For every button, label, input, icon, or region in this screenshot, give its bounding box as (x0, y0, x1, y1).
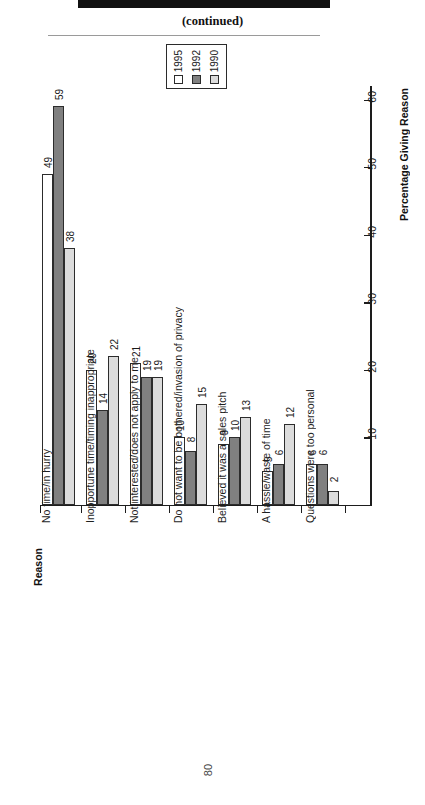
category-tick (301, 506, 302, 513)
bar-slot: 14 (97, 86, 108, 505)
bar-slot: 13 (240, 86, 251, 505)
category-tick (213, 506, 214, 513)
bar-value-label: 14 (97, 391, 108, 407)
bar-slot: 59 (53, 86, 64, 505)
bar[interactable]: 19 (152, 377, 163, 505)
title-block-redacted (78, 0, 330, 8)
bar[interactable]: 8 (185, 451, 196, 505)
value-tick (364, 505, 370, 506)
bar-slot: 8 (185, 86, 196, 505)
value-tick-label: 10 (366, 428, 378, 440)
bar[interactable]: 12 (284, 424, 295, 505)
bar-slot: 19 (141, 86, 152, 505)
bar-value-label: 13 (240, 398, 251, 414)
bar-value-label: 6 (273, 445, 284, 461)
bar[interactable]: 13 (240, 417, 251, 505)
bar-value-label: 38 (64, 229, 75, 245)
bar-value-label: 2 (328, 472, 339, 488)
bar-value-label: 49 (42, 154, 53, 170)
value-axis-line: 102030405060 (370, 86, 372, 506)
legend-swatch (174, 75, 183, 84)
bar[interactable]: 59 (53, 106, 64, 505)
bar[interactable]: 6 (317, 464, 328, 505)
bar-value-label: 15 (196, 384, 207, 400)
category-tick (81, 506, 82, 513)
bar-slot: 19 (152, 86, 163, 505)
bar-value-label: 12 (284, 404, 295, 420)
bar[interactable]: 10 (229, 437, 240, 505)
category-label: No time/in hurry (40, 449, 52, 523)
bar-slot: 49 (42, 86, 53, 505)
legend-item: 1995 (173, 50, 184, 84)
value-tick-label: 50 (366, 158, 378, 170)
legend-item: 1992 (191, 50, 202, 84)
legend-label: 1995 (173, 50, 184, 72)
bar-slot: 38 (64, 86, 75, 505)
bar-slot: 15 (196, 86, 207, 505)
bar[interactable]: 2 (328, 491, 339, 505)
legend-swatch (192, 75, 201, 84)
value-tick-label: 20 (366, 361, 378, 373)
bar-value-label: 59 (53, 87, 64, 103)
category-labels: No time/in hurryInopportune time/timing … (0, 515, 425, 785)
category-tick (169, 506, 170, 513)
category-label: Believed it was a sales pitch (216, 392, 228, 523)
category-tick (125, 506, 126, 513)
value-tick-label: 40 (366, 226, 378, 238)
bar-slot: 10 (229, 86, 240, 505)
legend-item: 1990 (209, 50, 220, 84)
bar-value-label: 8 (185, 431, 196, 447)
bar-slot: 12 (284, 86, 295, 505)
legend-swatch (210, 75, 219, 84)
bar-slot: 6 (273, 86, 284, 505)
bar-slot: 6 (317, 86, 328, 505)
category-tick (345, 506, 346, 513)
bar-slot: 2 (328, 86, 339, 505)
bar-value-label: 19 (141, 357, 152, 373)
category-label: Inopportune time/timing inappropriate (84, 349, 96, 523)
chart-legend: 199519921990 (166, 44, 227, 89)
bar-value-label: 10 (229, 418, 240, 434)
continued-heading: (continued) (0, 14, 425, 29)
value-tick-label: 30 (366, 293, 378, 305)
x-axis-title: Reason (32, 548, 44, 586)
value-tick-label: 60 (366, 91, 378, 103)
category-tick (257, 506, 258, 513)
bar-slot: 22 (108, 86, 119, 505)
y-axis-title: Percentage Giving Reason (398, 88, 410, 221)
category-label: Questions were too personal (304, 389, 316, 523)
legend-label: 1990 (209, 50, 220, 72)
page-number: 80 (195, 757, 221, 783)
bar[interactable]: 15 (196, 404, 207, 505)
bar-value-label: 22 (108, 337, 119, 353)
bar[interactable]: 14 (97, 410, 108, 505)
header-rule (48, 35, 320, 36)
category-label: Not interested/does not apply to me (128, 357, 140, 523)
category-label: A hassle/waste of time (260, 419, 272, 523)
bar-value-label: 19 (152, 357, 163, 373)
bar[interactable]: 6 (273, 464, 284, 505)
bar[interactable]: 38 (64, 248, 75, 505)
category-label: Do not want to be bothered/invasion of p… (172, 307, 184, 523)
bar-group: 495938 (42, 86, 75, 505)
bar[interactable]: 19 (141, 377, 152, 505)
bar[interactable]: 22 (108, 356, 119, 505)
bar-value-label: 6 (317, 445, 328, 461)
legend-label: 1992 (191, 50, 202, 72)
